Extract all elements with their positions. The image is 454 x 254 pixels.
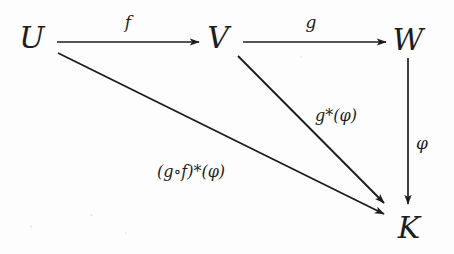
arrow-g-star-phi: [238, 56, 384, 203]
node-V: V: [207, 23, 229, 53]
node-U: U: [19, 23, 44, 53]
edge-label-g-star-phi: g*(φ): [315, 108, 357, 124]
arrow-gof-star-phi: [58, 53, 384, 214]
node-W: W: [393, 25, 424, 55]
edge-label-g: g: [306, 14, 317, 31]
node-K: K: [398, 213, 420, 243]
edge-label-gof-star-phi: (g∘f)*(φ): [157, 164, 225, 180]
edge-label-f: f: [125, 14, 131, 31]
commutative-diagram: U V W K f g φ g*(φ) (g∘f)*(φ): [0, 0, 454, 254]
edge-label-phi: φ: [416, 135, 428, 152]
